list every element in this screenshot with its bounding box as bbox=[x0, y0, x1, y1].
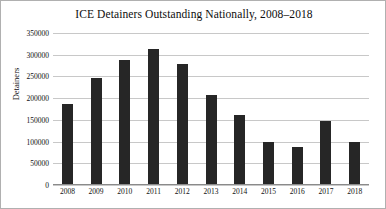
y-axis-tick-label: 150000 bbox=[1, 115, 49, 124]
y-axis-tick-label: 50000 bbox=[1, 159, 49, 168]
bar bbox=[349, 142, 360, 184]
y-axis-tick-label: 100000 bbox=[1, 137, 49, 146]
plot-area bbox=[53, 33, 369, 185]
y-axis-tick-label: 250000 bbox=[1, 72, 49, 81]
bar bbox=[292, 147, 303, 184]
bar bbox=[148, 49, 159, 184]
bar bbox=[62, 104, 73, 184]
bar bbox=[177, 64, 188, 184]
bar bbox=[91, 78, 102, 184]
x-axis-tick-label: 2018 bbox=[335, 187, 375, 196]
y-axis-tick-label: 300000 bbox=[1, 50, 49, 59]
x-axis-tick-labels: 2008200920102011201220132014201520162017… bbox=[53, 187, 369, 201]
gridline bbox=[53, 185, 369, 186]
chart-title: ICE Detainers Outstanding Nationally, 20… bbox=[1, 8, 386, 20]
y-axis-tick-label: 0 bbox=[1, 181, 49, 190]
bar bbox=[234, 115, 245, 184]
y-axis-tick-label: 200000 bbox=[1, 94, 49, 103]
bar bbox=[206, 95, 217, 184]
x-axis-line bbox=[53, 184, 369, 185]
bar bbox=[320, 121, 331, 184]
y-axis-tick-label: 350000 bbox=[1, 29, 49, 38]
bar bbox=[263, 142, 274, 184]
bar bbox=[119, 60, 130, 184]
chart-figure: ICE Detainers Outstanding Nationally, 20… bbox=[0, 0, 386, 209]
bar-series bbox=[53, 33, 369, 185]
